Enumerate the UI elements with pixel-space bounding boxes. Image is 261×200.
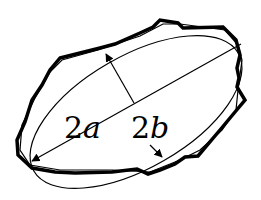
- minor-axis-label-number: 2: [131, 110, 150, 145]
- major-axis-label-variable: a: [83, 110, 101, 145]
- minor-axis-label-variable: b: [150, 110, 169, 145]
- major-axis-label: 2a: [64, 113, 101, 143]
- diagram-graphic: [0, 0, 261, 200]
- particle-diagram: 2a 2b: [0, 0, 261, 200]
- minor-axis-label: 2b: [131, 113, 169, 143]
- major-axis-label-number: 2: [64, 110, 83, 145]
